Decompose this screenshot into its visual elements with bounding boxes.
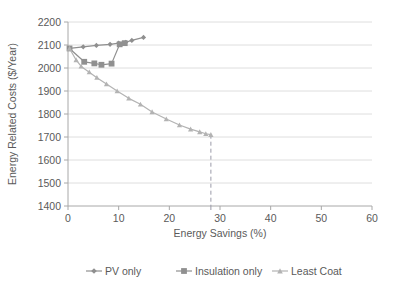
energy-savings-chart: 0102030405060 14001500160017001800190020… bbox=[0, 0, 400, 290]
legend-label: PV only bbox=[105, 265, 142, 277]
x-tick-label-10: 10 bbox=[113, 212, 125, 224]
chart-canvas: 0102030405060 14001500160017001800190020… bbox=[0, 0, 400, 290]
y-tick-label-2000: 2000 bbox=[38, 62, 62, 74]
x-tick-label-40: 40 bbox=[265, 212, 277, 224]
x-axis-title: Energy Savings (%) bbox=[174, 227, 267, 239]
y-tick-label-1900: 1900 bbox=[38, 85, 62, 97]
data-point-marker bbox=[122, 40, 128, 46]
y-tick-label-2200: 2200 bbox=[38, 16, 62, 28]
x-tick-label-50: 50 bbox=[315, 212, 327, 224]
legend-item-pv-only[interactable]: PV only bbox=[86, 265, 142, 277]
data-point-marker bbox=[109, 61, 115, 67]
y-tick-label-1400: 1400 bbox=[38, 200, 62, 212]
y-tick-label-1600: 1600 bbox=[38, 154, 62, 166]
x-tick-label-60: 60 bbox=[366, 212, 378, 224]
legend-marker-square-icon bbox=[181, 268, 187, 274]
x-axis-ticks bbox=[68, 206, 372, 210]
legend-item-insulation-only[interactable]: Insulation only bbox=[176, 265, 263, 277]
x-tick-label-30: 30 bbox=[214, 212, 226, 224]
legend-label: Insulation only bbox=[195, 265, 263, 277]
legend-label: Least Coat bbox=[291, 265, 342, 277]
legend-item-least-coat[interactable]: Least Coat bbox=[272, 265, 342, 277]
data-point-marker bbox=[81, 59, 87, 65]
y-tick-label-1700: 1700 bbox=[38, 131, 62, 143]
data-point-marker bbox=[99, 62, 105, 68]
data-point-marker bbox=[117, 41, 123, 47]
y-tick-label-1500: 1500 bbox=[38, 177, 62, 189]
x-tick-label-20: 20 bbox=[163, 212, 175, 224]
y-tick-label-2100: 2100 bbox=[38, 39, 62, 51]
data-point-marker bbox=[91, 61, 97, 67]
x-axis-tick-labels: 0102030405060 bbox=[65, 212, 378, 224]
chart-legend: PV onlyInsulation onlyLeast Coat bbox=[86, 265, 342, 277]
y-axis-tick-labels: 140015001600170018001900200021002200 bbox=[38, 16, 62, 212]
legend-marker-diamond-icon bbox=[91, 268, 97, 274]
x-tick-label-0: 0 bbox=[65, 212, 71, 224]
y-tick-label-1800: 1800 bbox=[38, 108, 62, 120]
y-axis-title: Energy Related Costs ($/Year) bbox=[6, 43, 18, 185]
